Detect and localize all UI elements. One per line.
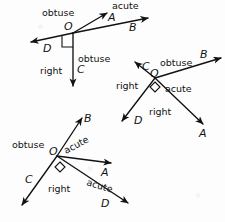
angle-label-obtuse-mid-figure-1: obtuse <box>78 53 111 64</box>
vertex-label-figure-1: O <box>64 20 73 33</box>
point-label-A-figure-2: A <box>198 127 207 140</box>
point-label-C-figure-2: C <box>142 60 150 73</box>
point-label-B-figure-1: B <box>129 21 137 34</box>
point-label-C-figure-3: C <box>25 173 33 186</box>
figure-1: O A B C D obtuse acute obtuse right <box>31 0 148 86</box>
point-label-B-figure-3: B <box>84 112 92 125</box>
point-label-D-figure-3: D <box>101 197 109 210</box>
angles-diagram: O A B C D obtuse acute obtuse right O B … <box>0 0 225 222</box>
point-label-D-figure-2: D <box>134 114 142 127</box>
angle-label-acute-figure-2: acute <box>165 83 192 94</box>
point-label-C-figure-1: C <box>77 63 85 76</box>
point-label-A-figure-3: A <box>100 166 109 179</box>
point-label-D-figure-1: D <box>43 42 51 55</box>
angle-label-acute-upper-figure-3: acute <box>62 133 91 155</box>
right-angle-square-figure-1 <box>62 36 73 47</box>
angle-label-obtuse-figure-2: obtuse <box>160 57 193 68</box>
figure-3: O B A C D obtuse acute acute right <box>12 112 128 210</box>
angle-label-acute-lower-figure-3: acute <box>85 176 114 194</box>
figure-2: O B A C D obtuse acute right right <box>116 48 221 140</box>
angle-label-right-figure-3: right <box>48 183 71 194</box>
angle-label-right-figure-1: right <box>40 65 63 76</box>
angle-label-acute-top-figure-1: acute <box>112 0 139 11</box>
point-label-A-figure-1: A <box>107 11 116 24</box>
vertex-label-figure-3: O <box>49 145 58 158</box>
angle-label-right-left-figure-2: right <box>116 80 139 91</box>
diagram-canvas: O A B C D obtuse acute obtuse right O B … <box>0 0 225 222</box>
point-label-B-figure-2: B <box>200 48 208 61</box>
angle-label-obtuse-left-figure-1: obtuse <box>42 7 75 18</box>
angle-label-obtuse-figure-3: obtuse <box>12 139 45 150</box>
vertex-label-figure-2: O <box>150 67 159 80</box>
angle-label-right-bottom-figure-2: right <box>149 106 172 117</box>
ray-O-D-figure-1 <box>31 33 73 42</box>
right-angle-diamond-figure-3 <box>55 162 65 172</box>
